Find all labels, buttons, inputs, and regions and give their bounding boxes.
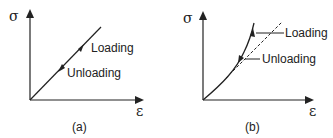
panel-a [26, 9, 144, 104]
loading-label-b: Loading [285, 27, 328, 39]
y-axis-arrow-icon [199, 11, 207, 20]
loading-arrow-icon [250, 28, 255, 37]
unloading-label-b: Unloading [262, 53, 316, 65]
epsilon-axis-label-a: ε [136, 104, 143, 118]
loading-arrow-icon [78, 44, 84, 52]
caption-a: (a) [72, 121, 87, 133]
sigma-axis-label-b: σ [183, 11, 193, 25]
unloading-arrow-icon [238, 55, 244, 63]
unloading-label-a: Unloading [67, 67, 121, 79]
stress-strain-diagram [0, 0, 333, 138]
nonlinear-curve [203, 23, 254, 100]
epsilon-axis-label-b: ε [309, 104, 316, 118]
y-axis-arrow-icon [26, 9, 34, 18]
loading-label-a: Loading [91, 42, 134, 54]
linear-curve [30, 27, 101, 100]
dashed-reference-line [226, 22, 282, 78]
sigma-axis-label-a: σ [9, 9, 19, 23]
caption-b: (b) [245, 121, 260, 133]
